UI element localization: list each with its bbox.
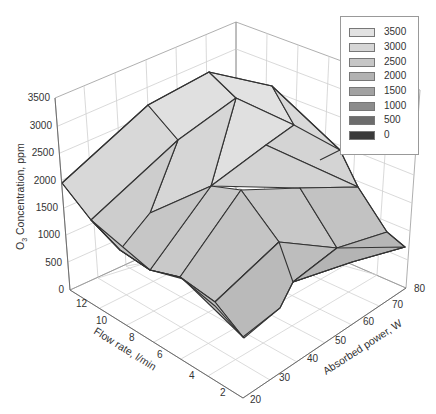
z-axis-ticks: 3500 3000 2500 2000 1500 1000 500 0 xyxy=(28,92,65,295)
legend-item: 0 xyxy=(349,129,419,141)
svg-text:20: 20 xyxy=(250,394,262,405)
svg-text:0: 0 xyxy=(58,284,64,295)
legend-item: 1000 xyxy=(349,100,419,112)
svg-text:2: 2 xyxy=(220,387,226,398)
legend-swatch xyxy=(349,87,375,96)
svg-text:40: 40 xyxy=(307,353,319,364)
legend-item: 500 xyxy=(349,114,419,126)
svg-text:30: 30 xyxy=(279,372,291,383)
svg-text:3000: 3000 xyxy=(30,120,53,131)
legend-swatch xyxy=(349,131,375,140)
legend-swatch xyxy=(349,116,375,125)
legend-item: 1500 xyxy=(349,85,419,97)
svg-text:8: 8 xyxy=(129,332,135,343)
legend-swatch xyxy=(349,43,375,52)
svg-text:50: 50 xyxy=(335,335,347,346)
svg-text:60: 60 xyxy=(363,316,375,327)
legend-swatch xyxy=(349,72,375,81)
svg-text:12: 12 xyxy=(76,298,88,309)
svg-text:2500: 2500 xyxy=(32,147,55,158)
svg-text:3500: 3500 xyxy=(28,92,51,103)
svg-text:1500: 1500 xyxy=(36,202,59,213)
legend-item: 3000 xyxy=(349,41,419,53)
legend-item: 2500 xyxy=(349,56,419,68)
x-axis-label: Flow rate, l/min xyxy=(92,325,159,373)
z-axis-label: O3 Concentration, ppm xyxy=(14,143,28,250)
svg-text:1000: 1000 xyxy=(38,229,61,240)
legend-swatch xyxy=(349,58,375,67)
svg-text:500: 500 xyxy=(45,257,62,268)
legend-swatch xyxy=(349,102,375,111)
svg-text:4: 4 xyxy=(189,370,195,381)
x-axis-ticks: 12 10 8 6 4 2 xyxy=(76,298,226,398)
legend-item: 3500 xyxy=(349,26,419,38)
legend: 3500 3000 2500 2000 1500 1000 500 0 xyxy=(340,16,419,155)
legend-item: 2000 xyxy=(349,70,419,82)
legend-swatch xyxy=(349,28,375,37)
svg-text:80: 80 xyxy=(414,283,426,294)
svg-text:6: 6 xyxy=(157,349,163,360)
svg-text:2000: 2000 xyxy=(34,175,57,186)
svg-text:70: 70 xyxy=(392,299,404,310)
